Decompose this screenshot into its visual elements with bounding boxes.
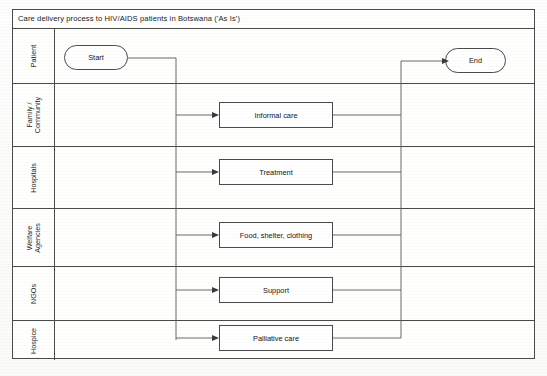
swimlane-label-hospitals: Hospitals bbox=[29, 163, 37, 193]
swimlane-label-cell-hospitals: Hospitals bbox=[13, 147, 55, 208]
diagram-frame: Care delivery process to HIV/AIDS patien… bbox=[12, 9, 535, 359]
swimlane-label-line1: Welfare bbox=[24, 225, 33, 250]
swimlane-body-family-community: Informal care bbox=[55, 84, 534, 146]
swimlane-family-community: Family / Community Informal care bbox=[13, 84, 534, 147]
swimlane-body-patient: Start End bbox=[55, 29, 534, 83]
diagram-title-band: Care delivery process to HIV/AIDS patien… bbox=[13, 10, 534, 29]
swimlane-ngos: NGOs Support bbox=[13, 267, 534, 321]
node-end[interactable]: End bbox=[445, 48, 506, 73]
node-start[interactable]: Start bbox=[64, 45, 128, 70]
swimlane-label-line2: Agencies bbox=[33, 223, 42, 253]
swimlane-label-line1: Family / bbox=[24, 102, 33, 127]
node-treatment[interactable]: Treatment bbox=[219, 159, 333, 185]
swimlane-label-line2: Community bbox=[33, 97, 42, 133]
node-palliative-care[interactable]: Palliative care bbox=[219, 325, 333, 351]
swimlane-body-hospice: Palliative care bbox=[55, 321, 534, 360]
swimlane-body-hospitals: Treatment bbox=[55, 147, 534, 208]
swimlane-label-cell-family-community: Family / Community bbox=[13, 84, 55, 146]
swimlane-label-cell-patient: Patient bbox=[13, 29, 55, 83]
diagram-title: Care delivery process to HIV/AIDS patien… bbox=[18, 14, 240, 23]
swimlane-label-ngos: NGOs bbox=[29, 284, 37, 304]
swimlane-body-ngos: Support bbox=[55, 267, 534, 320]
swimlane-body-welfare-agencies: Food, shelter, clothing bbox=[55, 209, 534, 266]
page-canvas: Care delivery process to HIV/AIDS patien… bbox=[0, 0, 547, 376]
swimlane-label-welfare-agencies: Welfare Agencies bbox=[25, 223, 42, 253]
node-informal-care[interactable]: Informal care bbox=[219, 102, 333, 128]
swimlane-label-cell-welfare-agencies: Welfare Agencies bbox=[13, 209, 55, 266]
swimlane-hospitals: Hospitals Treatment bbox=[13, 147, 534, 209]
swimlane-label-hospice: Hospice bbox=[29, 328, 37, 354]
swimlane-label-family-community: Family / Community bbox=[25, 97, 42, 133]
swimlane-label-cell-hospice: Hospice bbox=[13, 321, 55, 360]
swimlane-patient: Patient Start End bbox=[13, 29, 534, 84]
node-food-shelter-clothing[interactable]: Food, shelter, clothing bbox=[219, 222, 333, 248]
swimlane-label-cell-ngos: NGOs bbox=[13, 267, 55, 320]
swimlane-hospice: Hospice Palliative care bbox=[13, 321, 534, 360]
node-support[interactable]: Support bbox=[219, 277, 333, 303]
swimlane-welfare-agencies: Welfare Agencies Food, shelter, clothing bbox=[13, 209, 534, 267]
swimlane-label-patient: Patient bbox=[29, 45, 37, 67]
